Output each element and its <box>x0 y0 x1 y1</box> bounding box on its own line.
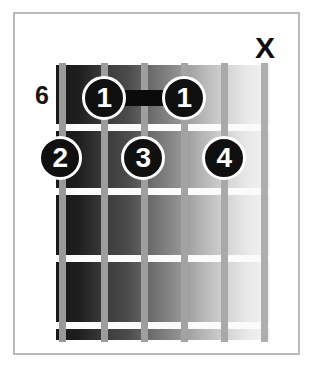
finger-dot-1-barre-high[interactable]: 1 <box>162 76 206 120</box>
string-1 <box>59 63 66 342</box>
chord-diagram-page: 1 1 2 3 4 6 X <box>0 0 322 381</box>
guitar-chord-diagram: 1 1 2 3 4 6 X <box>0 0 322 381</box>
finger-dot-1-barre-low[interactable]: 1 <box>82 76 126 120</box>
finger-dot-4[interactable]: 4 <box>202 136 246 180</box>
finger-dot-2[interactable]: 2 <box>38 136 82 180</box>
string-6 <box>261 63 268 342</box>
finger-dot-3[interactable]: 3 <box>121 136 165 180</box>
fret-line-3 <box>56 255 270 262</box>
string-5 <box>221 63 228 342</box>
fret-position-label: 6 <box>30 80 54 110</box>
muted-string-x-icon: X <box>250 31 280 65</box>
fret-line-4 <box>56 322 270 329</box>
fret-line-1 <box>56 124 270 131</box>
fret-line-2 <box>56 188 270 195</box>
